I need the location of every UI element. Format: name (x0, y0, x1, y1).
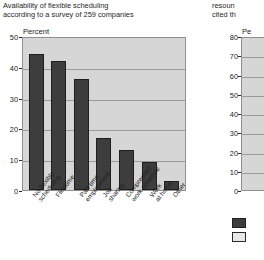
y-tick-mark (238, 153, 241, 154)
y-tick-mark (238, 76, 241, 77)
chart-caption-line2: according to a survey of 259 companies (3, 10, 189, 19)
second-chart-panel-clipped: resoun cited th Pe 80706050403020100 (196, 0, 264, 260)
legend-swatch-light (232, 232, 246, 242)
y-tick-label: 20 (220, 149, 238, 158)
chart-caption-right-line2: cited th (212, 10, 264, 19)
y-tick-label: 70 (220, 52, 238, 61)
y-tick-mark (238, 37, 241, 38)
y-tick-label: 80 (220, 33, 238, 42)
chart-caption: Availability of flexible scheduling acco… (3, 1, 189, 20)
y-tick-mark (19, 68, 22, 69)
gridline (242, 77, 264, 78)
bar (29, 54, 44, 190)
y-tick-mark (238, 191, 241, 192)
y-tick-mark (238, 56, 241, 57)
legend-swatch-dark (232, 218, 246, 228)
y-tick-mark (19, 129, 22, 130)
y-tick-label: 50 (0, 33, 18, 42)
y-tick-label: 60 (220, 72, 238, 81)
chart-caption-right: resoun cited th (212, 1, 264, 20)
flexible-scheduling-chart-panel: Availability of flexible scheduling acco… (0, 0, 196, 260)
y-tick-label: 50 (220, 91, 238, 100)
plot-area-right (241, 37, 264, 191)
y-axis-title-right: Pe (242, 27, 251, 36)
legend-item-series-1 (232, 218, 264, 228)
gridline (242, 134, 264, 135)
y-tick-mark (19, 99, 22, 100)
y-tick-label: 10 (220, 168, 238, 177)
y-tick-label: 0 (220, 187, 238, 196)
y-axis-title-left: Percent (23, 27, 49, 36)
y-tick-mark (238, 133, 241, 134)
y-tick-label: 40 (0, 64, 18, 73)
gridline (242, 96, 264, 97)
y-tick-mark (238, 172, 241, 173)
legend-item-series-2 (232, 232, 264, 242)
gridline (242, 154, 264, 155)
y-tick-label: 40 (220, 110, 238, 119)
y-tick-label: 10 (0, 156, 18, 165)
x-axis-category-labels: No flexible schedulingFlexitimePart-time… (22, 192, 186, 258)
y-tick-mark (238, 114, 241, 115)
y-tick-label: 30 (0, 95, 18, 104)
gridline (242, 173, 264, 174)
y-tick-mark (19, 37, 22, 38)
y-tick-label: 20 (0, 125, 18, 134)
y-tick-label: 30 (220, 129, 238, 138)
gridline (242, 115, 264, 116)
chart-caption-line1: Availability of flexible scheduling (3, 1, 189, 10)
y-tick-label: 0 (0, 187, 18, 196)
gridline (242, 57, 264, 58)
y-tick-mark (238, 95, 241, 96)
chart-legend-right (232, 218, 264, 246)
chart-caption-right-line1: resoun (212, 1, 264, 10)
y-tick-mark (19, 160, 22, 161)
